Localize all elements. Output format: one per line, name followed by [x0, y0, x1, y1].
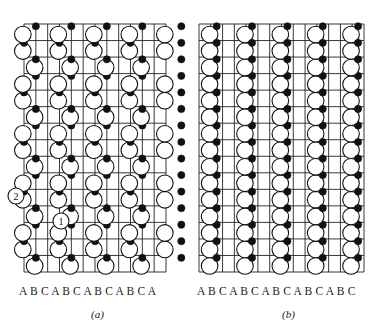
panel-b-stacking-labels: A B C A B C A B C A B C A B C	[197, 285, 356, 297]
open-atom	[157, 125, 174, 142]
filled-atom	[248, 23, 255, 30]
filled-atom	[248, 105, 255, 112]
filled-atom	[284, 105, 291, 112]
filled-atom	[178, 238, 185, 245]
filled-atom	[284, 188, 291, 195]
marker-label: 1	[59, 216, 64, 227]
filled-atom	[68, 23, 75, 30]
filled-atom	[213, 105, 220, 112]
filled-atom	[32, 23, 39, 30]
open-atom	[86, 76, 103, 93]
filled-atom	[103, 155, 110, 162]
filled-atom	[355, 138, 362, 145]
open-atom	[157, 43, 174, 60]
filled-atom	[68, 254, 75, 261]
filled-atom	[32, 105, 39, 112]
filled-atom	[213, 89, 220, 96]
filled-atom	[213, 56, 220, 63]
filled-atom	[213, 238, 220, 245]
filled-atom	[319, 155, 326, 162]
open-atom	[50, 26, 67, 43]
filled-atom	[32, 56, 39, 63]
filled-atom	[284, 23, 291, 30]
filled-atom	[284, 39, 291, 46]
filled-atom	[355, 238, 362, 245]
filled-atom	[139, 205, 146, 212]
open-atom	[121, 175, 138, 192]
filled-atom	[178, 138, 185, 145]
filled-atom	[178, 105, 185, 112]
filled-atom	[248, 155, 255, 162]
filled-atom	[248, 138, 255, 145]
filled-atom	[284, 238, 291, 245]
filled-atom	[139, 23, 146, 30]
filled-atom	[319, 238, 326, 245]
filled-atom	[248, 254, 255, 261]
filled-atom	[355, 105, 362, 112]
filled-atom	[319, 39, 326, 46]
filled-atom	[355, 56, 362, 63]
filled-atom	[32, 155, 39, 162]
open-atom	[121, 76, 138, 93]
open-atom	[15, 125, 32, 142]
filled-atom	[248, 56, 255, 63]
marker-label: 2	[14, 191, 19, 202]
panel-b-lattice	[178, 23, 364, 275]
filled-atom	[319, 105, 326, 112]
filled-atom	[103, 205, 110, 212]
panel-a-caption: (a)	[91, 308, 104, 320]
open-atom	[121, 26, 138, 43]
filled-atom	[178, 89, 185, 96]
open-atom	[157, 26, 174, 43]
filled-atom	[319, 89, 326, 96]
open-atom	[50, 175, 67, 192]
filled-atom	[284, 138, 291, 145]
filled-atom	[355, 89, 362, 96]
filled-atom	[103, 23, 110, 30]
filled-atom	[139, 155, 146, 162]
open-atom	[15, 225, 32, 242]
open-atom	[121, 125, 138, 142]
filled-atom	[284, 89, 291, 96]
filled-atom	[355, 39, 362, 46]
filled-atom	[248, 238, 255, 245]
filled-atom	[178, 205, 185, 212]
filled-atom	[248, 39, 255, 46]
stacking-fault-diagram: 21	[0, 0, 389, 332]
filled-atom	[319, 188, 326, 195]
filled-atom	[178, 23, 185, 30]
open-atom	[86, 26, 103, 43]
filled-atom	[68, 205, 75, 212]
open-atom	[86, 125, 103, 142]
open-atom	[86, 225, 103, 242]
open-atom	[15, 26, 32, 43]
filled-atom	[103, 105, 110, 112]
filled-atom	[248, 188, 255, 195]
filled-atom	[284, 56, 291, 63]
open-atom	[50, 76, 67, 93]
filled-atom	[355, 205, 362, 212]
panel-b-caption: (b)	[282, 308, 295, 320]
filled-atom	[319, 138, 326, 145]
filled-atom	[178, 56, 185, 63]
filled-atom	[213, 188, 220, 195]
open-atom	[157, 192, 174, 209]
open-atom	[157, 241, 174, 258]
filled-atom	[68, 105, 75, 112]
filled-atom	[284, 205, 291, 212]
open-atom	[15, 76, 32, 93]
filled-atom	[68, 155, 75, 162]
panel-a-stacking-labels: A B C A B C A B C A B C A	[19, 285, 156, 297]
filled-atom	[284, 254, 291, 261]
open-atom	[157, 92, 174, 109]
filled-atom	[319, 56, 326, 63]
filled-atom	[178, 155, 185, 162]
filled-atom	[213, 39, 220, 46]
filled-atom	[178, 254, 185, 261]
open-atom	[157, 175, 174, 192]
filled-atom	[103, 254, 110, 261]
filled-atom	[178, 72, 185, 79]
open-atom	[86, 175, 103, 192]
filled-atom	[32, 205, 39, 212]
filled-atom	[139, 105, 146, 112]
